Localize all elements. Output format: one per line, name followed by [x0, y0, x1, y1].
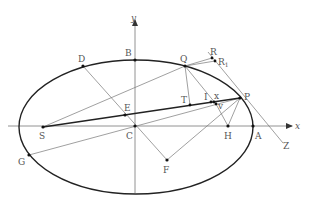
label-R1: R1 [218, 57, 229, 68]
label-A: A [254, 131, 262, 141]
label-F: F [163, 165, 169, 175]
point-x [213, 101, 216, 104]
point-P [238, 96, 241, 99]
point-I [210, 101, 213, 104]
x-axis-label: x [295, 121, 300, 131]
label-S: S [39, 131, 45, 141]
label-G: G [18, 157, 25, 167]
label-v: v [217, 101, 224, 111]
label-Z: Z [283, 141, 289, 151]
point-C [133, 124, 136, 127]
label-I: I [204, 92, 208, 102]
y-axis-label: y [130, 13, 137, 23]
label-B: B [125, 48, 132, 58]
line-PH [228, 98, 240, 126]
line-DF [83, 66, 167, 160]
point-v [215, 103, 218, 106]
point-T [189, 104, 192, 107]
point-S [41, 125, 44, 128]
point-R [211, 57, 214, 60]
label-T: T [181, 95, 187, 105]
label-H: H [224, 131, 232, 141]
label-R: R [210, 47, 217, 57]
point-R1 [214, 60, 217, 63]
point-A [251, 124, 254, 127]
line-SQ [43, 66, 185, 127]
point-D [81, 64, 84, 67]
ellipse-diagram: y x B D Q R R1 T I x v P E S C H A Z G F [0, 0, 310, 203]
label-R1-sub: 1 [225, 61, 229, 68]
point-Q [183, 64, 186, 67]
point-G [27, 153, 30, 156]
label-E: E [124, 103, 131, 113]
point-E [123, 113, 126, 116]
label-Q: Q [180, 54, 187, 64]
label-x: x [214, 91, 219, 101]
label-P: P [244, 92, 250, 102]
point-F [165, 158, 168, 161]
point-H [226, 124, 229, 127]
point-B [133, 58, 136, 61]
label-C: C [126, 131, 133, 141]
label-D: D [78, 54, 85, 64]
